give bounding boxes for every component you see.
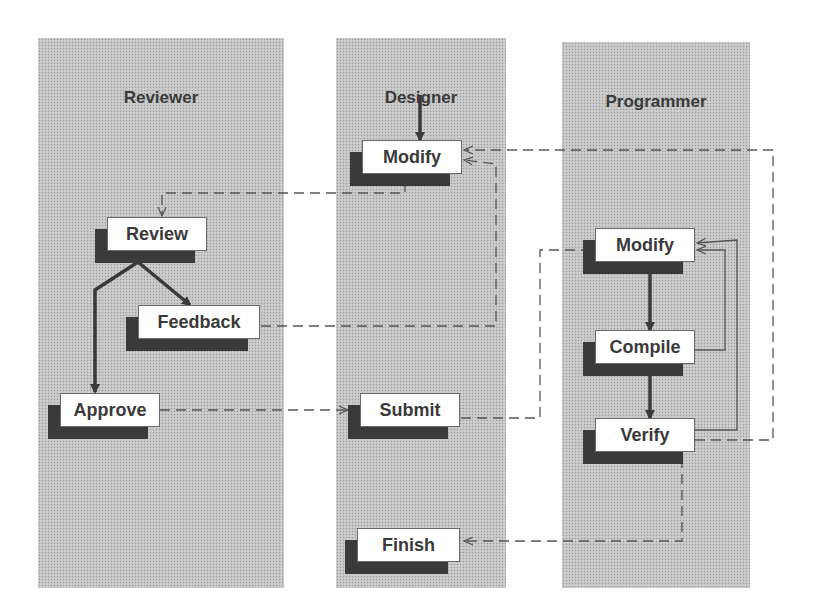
- edge-compile-pmodify: [695, 250, 725, 350]
- node-review[interactable]: Review: [107, 217, 207, 251]
- node-label: Submit: [360, 393, 460, 427]
- edge-verify-dmodify: [464, 150, 773, 440]
- edge-verify-finish: [464, 458, 682, 541]
- edge-review-feedback: [138, 262, 190, 305]
- node-label: Review: [107, 217, 207, 251]
- edge-submit-pmodify: [461, 250, 596, 418]
- node-compile[interactable]: Compile: [595, 330, 695, 364]
- node-label: Finish: [357, 528, 460, 562]
- node-verify[interactable]: Verify: [595, 418, 695, 452]
- node-designer-modify[interactable]: Modify: [362, 140, 462, 174]
- edge-verify-pmodify: [695, 240, 737, 430]
- node-finish[interactable]: Finish: [357, 528, 460, 562]
- node-programmer-modify[interactable]: Modify: [595, 228, 695, 262]
- node-label: Modify: [362, 140, 462, 174]
- node-feedback[interactable]: Feedback: [138, 305, 260, 339]
- connectors: [0, 0, 813, 616]
- node-label: Compile: [595, 330, 695, 364]
- node-label: Feedback: [138, 305, 260, 339]
- node-label: Modify: [595, 228, 695, 262]
- edge-dmodify-review: [162, 182, 405, 216]
- node-label: Verify: [595, 418, 695, 452]
- node-submit[interactable]: Submit: [360, 393, 460, 427]
- node-label: Approve: [60, 393, 160, 427]
- node-approve[interactable]: Approve: [60, 393, 160, 427]
